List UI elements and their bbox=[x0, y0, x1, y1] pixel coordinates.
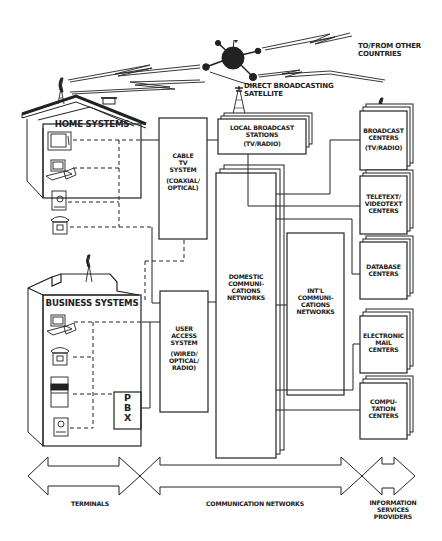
telephone-icon bbox=[51, 348, 69, 366]
computation-centers-label: COMPU- TATION CENTERS bbox=[360, 399, 407, 420]
telecom-network-diagram: DIRECT BROADCASTING SATELLITE TO/FROM OT… bbox=[0, 0, 442, 541]
computation-line3: CENTERS bbox=[360, 413, 407, 420]
teletext-centers-label: TELETEXT/ VIDEOTEXT CENTERS bbox=[360, 194, 407, 215]
telephone-icon bbox=[51, 217, 69, 235]
domestic-line4: NETWORKS bbox=[216, 295, 276, 302]
domestic-networks-label: DOMESTIC COMMUNI- CATIONS NETWORKS bbox=[216, 274, 276, 302]
business-systems-title: BUSINESS SYSTEMS bbox=[42, 299, 142, 309]
bottom-arrows bbox=[28, 457, 415, 495]
business-systems-title-text: BUSINESS SYSTEMS bbox=[42, 299, 142, 309]
database-line2: CENTERS bbox=[360, 271, 407, 278]
intl-line4: NETWORKS bbox=[287, 309, 344, 316]
teletext-line3: CENTERS bbox=[360, 208, 407, 215]
home-devices bbox=[46, 132, 76, 234]
satellite-icon bbox=[203, 40, 261, 81]
email-line3: CENTERS bbox=[360, 347, 407, 354]
domestic-networks-stack bbox=[216, 165, 284, 458]
cable-tv-label: CABLE TV SYSTEM (COAXIAL/ OPTICAL) bbox=[159, 153, 207, 192]
local-broadcast-line3: (TV/RADIO) bbox=[218, 141, 306, 148]
pbx-label: P B X bbox=[114, 393, 141, 423]
local-broadcast-line2: STATIONS bbox=[218, 132, 306, 139]
business-devices bbox=[47, 315, 76, 436]
terminals-text: TERMINALS bbox=[40, 501, 140, 508]
other-countries-label: TO/FROM OTHER COUNTRIES bbox=[358, 43, 421, 59]
other-countries-line2: COUNTRIES bbox=[358, 51, 421, 59]
database-centers-label: DATABASE CENTERS bbox=[360, 264, 407, 278]
business-access-links bbox=[141, 322, 160, 408]
cable-tv-line5: OPTICAL) bbox=[159, 185, 207, 192]
computer-icon bbox=[47, 315, 76, 335]
satellite-label: DIRECT BROADCASTING SATELLITE bbox=[244, 83, 333, 99]
computer-icon bbox=[46, 160, 76, 180]
user-access-label: USER ACCESS SYSTEM (WIRED/ OPTICAL/ RADI… bbox=[160, 326, 208, 372]
videotext-terminal-icon bbox=[52, 191, 66, 210]
home-systems-title: HOME SYSTEMS bbox=[52, 120, 132, 130]
cable-tv-line3: SYSTEM bbox=[159, 167, 207, 174]
user-access-line6: RADIO) bbox=[160, 365, 208, 372]
communication-networks-text: COMMUNICATION NETWORKS bbox=[180, 501, 330, 508]
isp-line3: PROVIDERS bbox=[358, 514, 428, 521]
terminals-label: TERMINALS bbox=[40, 501, 140, 508]
communication-networks-label: COMMUNICATION NETWORKS bbox=[180, 501, 330, 508]
cable-business-link bbox=[145, 240, 184, 302]
email-centers-label: ELECTRONIC MAIL CENTERS bbox=[360, 333, 407, 354]
home-systems-title-text: HOME SYSTEMS bbox=[52, 120, 132, 130]
home-building bbox=[22, 78, 146, 198]
broadcast-centers-line3: (TV/RADIO) bbox=[360, 145, 407, 152]
facsimile-icon bbox=[51, 377, 68, 407]
information-services-providers-label: INFORMATION SERVICES PROVIDERS bbox=[358, 500, 428, 521]
pbx-x: X bbox=[114, 413, 141, 423]
local-broadcast-label: LOCAL BROADCAST STATIONS (TV/RADIO) bbox=[218, 125, 306, 148]
terminal-icon bbox=[54, 418, 68, 436]
home-wiring bbox=[68, 140, 152, 227]
broadcast-centers-line2: CENTERS bbox=[360, 135, 407, 142]
user-access-line3: SYSTEM bbox=[160, 340, 208, 347]
television-icon bbox=[48, 132, 71, 150]
broadcast-centers-label: BROADCAST CENTERS (TV/RADIO) bbox=[360, 128, 407, 152]
satellite-label-line2: SATELLITE bbox=[244, 91, 333, 99]
intl-networks-label: INT'L COMMUNI- CATIONS NETWORKS bbox=[287, 288, 344, 316]
